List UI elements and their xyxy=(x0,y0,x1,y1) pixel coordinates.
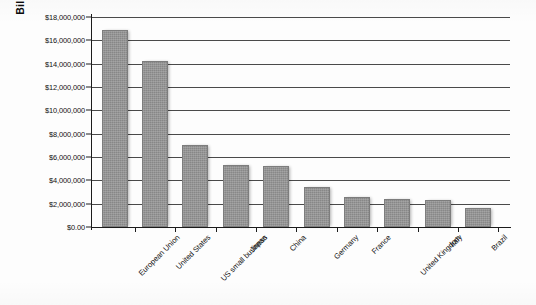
y-axis-tick-label: $6,000,000 xyxy=(49,153,85,162)
x-axis-tick-mark xyxy=(135,227,136,232)
bar[interactable] xyxy=(263,166,289,227)
x-axis-tick-mark xyxy=(458,227,459,232)
bar[interactable] xyxy=(304,187,330,227)
y-axis-tick-label: $8,000,000 xyxy=(49,129,85,138)
bar[interactable] xyxy=(223,165,249,227)
x-axis-tick-mark xyxy=(498,227,499,232)
bar-slot xyxy=(256,17,296,227)
plot-area: $18,000,000$16,000,000$14,000,000$12,000… xyxy=(92,17,510,227)
y-axis-tick-label: $2,000,000 xyxy=(49,199,85,208)
bar-slot xyxy=(296,17,336,227)
x-axis-category-label: China xyxy=(288,233,308,253)
bar[interactable] xyxy=(465,208,491,227)
bar[interactable] xyxy=(344,197,370,227)
y-axis-tick-mark xyxy=(86,227,92,228)
y-axis-tick-label: $10,000,000 xyxy=(45,106,85,115)
y-axis-title: Billions xyxy=(14,0,26,50)
x-axis-category-label: Brazil xyxy=(490,233,510,253)
bar[interactable] xyxy=(384,199,410,227)
bar-slot xyxy=(94,17,134,227)
bar[interactable] xyxy=(102,30,128,227)
x-axis-category-label: Germany xyxy=(332,233,360,261)
x-axis-tick-mark xyxy=(377,227,378,232)
y-axis-tick-mark xyxy=(86,87,92,88)
y-axis-tick-label: $4,000,000 xyxy=(49,176,85,185)
y-axis-tick-mark xyxy=(86,157,92,158)
y-axis-tick-mark xyxy=(86,203,92,204)
bar-slot xyxy=(458,17,498,227)
x-axis-tick-mark xyxy=(216,227,217,232)
x-axis-category-label: European Union xyxy=(136,233,181,278)
y-axis-tick-mark xyxy=(86,110,92,111)
y-axis-tick-label: $12,000,000 xyxy=(45,83,85,92)
y-axis-tick-label: $0.00 xyxy=(67,223,85,232)
bar-slot xyxy=(135,17,175,227)
x-axis-category-label: France xyxy=(370,233,393,256)
bar-slot xyxy=(377,17,417,227)
bar-chart-figure: Billions $18,000,000$16,000,000$14,000,0… xyxy=(0,0,536,305)
y-axis-tick-mark xyxy=(86,133,92,134)
x-axis-line xyxy=(91,227,511,228)
y-axis-tick-mark xyxy=(86,180,92,181)
bar[interactable] xyxy=(425,200,451,227)
bar-slot xyxy=(418,17,458,227)
y-axis-tick-label: $18,000,000 xyxy=(45,13,85,22)
x-axis-category-label: Japan xyxy=(248,233,269,254)
bar-slot xyxy=(337,17,377,227)
y-axis-tick-mark xyxy=(86,63,92,64)
bar-slot xyxy=(216,17,256,227)
bar[interactable] xyxy=(142,61,168,227)
x-axis-tick-mark xyxy=(418,227,419,232)
bar[interactable] xyxy=(182,145,208,227)
x-axis-tick-mark xyxy=(337,227,338,232)
x-axis-tick-mark xyxy=(296,227,297,232)
y-axis-line xyxy=(91,14,92,230)
x-axis-tick-mark xyxy=(175,227,176,232)
bar-slot xyxy=(175,17,215,227)
y-axis-tick-label: $16,000,000 xyxy=(45,36,85,45)
x-axis-tick-mark xyxy=(256,227,257,232)
y-axis-tick-label: $14,000,000 xyxy=(45,59,85,68)
y-axis-tick-mark xyxy=(86,40,92,41)
y-axis-tick-mark xyxy=(86,17,92,18)
